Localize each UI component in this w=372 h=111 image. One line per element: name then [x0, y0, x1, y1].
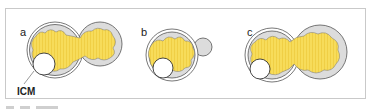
- panel-a-embryo: [24, 22, 122, 84]
- caption-cutoff: [6, 103, 86, 111]
- icm-label: ICM: [17, 86, 35, 97]
- panel-label-c: c: [247, 26, 253, 38]
- panel-c-embryo: [245, 25, 347, 82]
- panel-label-b: b: [141, 26, 147, 38]
- panel-label-a: a: [20, 26, 27, 38]
- panel-b-embryo: [146, 29, 212, 81]
- embryo-diagram: a ICM b c: [0, 0, 372, 111]
